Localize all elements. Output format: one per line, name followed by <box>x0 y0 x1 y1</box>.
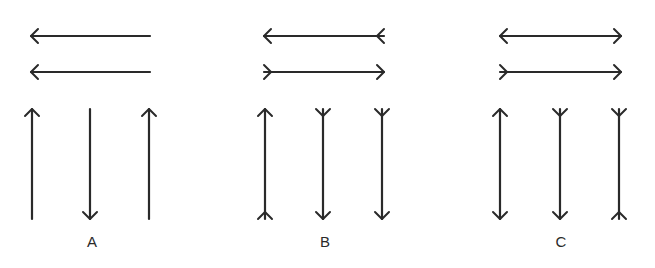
arrow-figure <box>0 0 655 268</box>
vertical-arrow-2 <box>316 109 330 219</box>
vertical-arrow-1 <box>25 109 39 219</box>
horizontal-arrow-1 <box>31 29 150 43</box>
panel-a <box>25 29 156 219</box>
horizontal-arrow-2 <box>264 65 384 79</box>
vertical-arrow-1 <box>493 109 507 219</box>
panel-b <box>258 29 389 219</box>
horizontal-arrow-2 <box>500 65 621 79</box>
panel-label-c: C <box>556 233 567 250</box>
panel-c <box>493 29 626 219</box>
vertical-arrow-2 <box>553 109 567 219</box>
vertical-arrow-3 <box>142 109 156 219</box>
panel-label-a: A <box>87 233 97 250</box>
horizontal-arrow-1 <box>264 29 384 43</box>
vertical-arrow-2 <box>83 109 97 219</box>
vertical-arrow-1 <box>258 109 272 219</box>
panel-label-b: B <box>320 233 330 250</box>
horizontal-arrow-1 <box>500 29 621 43</box>
horizontal-arrow-2 <box>31 65 150 79</box>
vertical-arrow-3 <box>375 109 389 219</box>
vertical-arrow-3 <box>612 109 626 219</box>
